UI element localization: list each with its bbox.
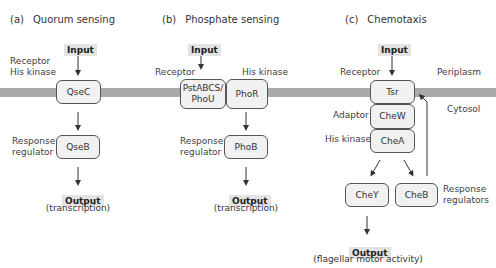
panel-a-input: Input — [64, 38, 97, 57]
panel-a-output-detail: (transcription) — [38, 203, 118, 213]
tsr-label: Tsr — [386, 87, 398, 98]
panel-b-title: (b)Phosphate sensing — [162, 14, 279, 25]
phou-label: PhoU — [183, 94, 224, 105]
chew-box: CheW — [370, 104, 415, 129]
panel-c-regulators-label: Response regulators — [443, 184, 489, 206]
phor-box: PhoR — [226, 79, 268, 109]
panel-c-title-text: Chemotaxis — [367, 14, 426, 25]
panel-a-title-text: Quorum sensing — [33, 14, 115, 25]
panel-b-input: Input — [188, 38, 221, 57]
arrow-chea-to-chey — [372, 160, 380, 174]
chew-label: CheW — [379, 111, 405, 122]
receptor-label-line2: His kinase — [10, 67, 56, 78]
adaptor-label: Adaptor — [333, 110, 369, 121]
regulator-label-line1: Response — [12, 136, 55, 147]
panel-c-kinase-label: His kinase — [325, 134, 371, 145]
panel-b-regulator-label: Response regulator — [180, 136, 223, 158]
phor-label: PhoR — [236, 89, 259, 100]
chey-label: CheY — [355, 190, 378, 201]
panel-a-letter: (a) — [10, 14, 24, 25]
cytosol-label: Cytosol — [447, 104, 480, 115]
panel-c-title: (c)Chemotaxis — [345, 14, 427, 25]
chea-label: CheA — [381, 136, 405, 147]
input-label: Input — [378, 44, 411, 56]
periplasm-label: Periplasm — [437, 67, 481, 78]
phob-label: PhoB — [235, 142, 258, 153]
regulator-label-line1: Response — [180, 136, 223, 147]
panel-a-receptor-label: Receptor His kinase — [10, 56, 56, 78]
regulators-label-line1: Response — [443, 184, 489, 195]
panel-b-output-detail: (transcription) — [205, 203, 287, 213]
cheb-box: CheB — [395, 183, 438, 207]
receptor-label-line1: Receptor — [10, 56, 56, 67]
pstabcs-label: PstABCS/ — [183, 83, 224, 94]
panel-c-output-detail: (flagellar motor activity) — [312, 254, 424, 264]
arrow-cheb-to-tsr-feedback — [421, 96, 427, 176]
panel-c-letter: (c) — [345, 14, 358, 25]
panel-b-kinase-label: His kinase — [242, 67, 288, 78]
input-label: Input — [64, 44, 97, 56]
input-label: Input — [188, 44, 221, 56]
panel-c-receptor-label: Receptor — [340, 67, 380, 78]
chey-box: CheY — [345, 183, 389, 207]
panel-a-regulator-label: Response regulator — [12, 136, 55, 158]
regulator-label-line2: regulator — [180, 147, 223, 158]
qseb-label: QseB — [66, 142, 89, 153]
pstabcs-phou-box: PstABCS/ PhoU — [180, 79, 226, 109]
panel-a-title: (a)Quorum sensing — [10, 14, 115, 25]
panel-b-title-text: Phosphate sensing — [185, 14, 279, 25]
qsec-box: QseC — [56, 80, 101, 104]
cheb-label: CheB — [405, 190, 429, 201]
panel-c-input: Input — [378, 38, 411, 57]
qseb-box: QseB — [56, 135, 100, 159]
regulator-label-line2: regulator — [12, 147, 55, 158]
arrow-chea-to-cheb — [404, 160, 412, 174]
chea-box: CheA — [370, 129, 415, 153]
phob-box: PhoB — [224, 135, 268, 159]
qsec-label: QseC — [67, 87, 91, 98]
panel-b-letter: (b) — [162, 14, 176, 25]
regulators-label-line2: regulators — [443, 195, 489, 206]
panel-b-receptor-label: Receptor — [155, 67, 195, 78]
tsr-box: Tsr — [370, 80, 415, 104]
